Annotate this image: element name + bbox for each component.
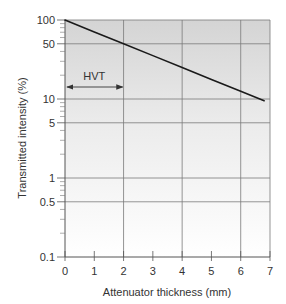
x-tick-label: 6 — [238, 265, 244, 277]
hvt-label: HVT — [83, 70, 105, 82]
x-tick-label: 2 — [121, 265, 127, 277]
attenuation-chart: 1005010510.50.1 01234567 HVT Attenuator … — [0, 0, 286, 304]
x-tick-label: 7 — [267, 265, 273, 277]
y-tick-label: 0.5 — [40, 196, 55, 208]
x-tick-label: 0 — [62, 265, 68, 277]
y-tick-label: 5 — [49, 117, 55, 129]
x-tick-label: 4 — [179, 265, 185, 277]
x-axis-label: Attenuator thickness (mm) — [103, 286, 231, 298]
x-tick-label: 5 — [208, 265, 214, 277]
plot-background — [65, 20, 270, 257]
x-tick-label: 1 — [91, 265, 97, 277]
y-tick-label: 100 — [37, 14, 55, 26]
y-axis-ticks: 1005010510.50.1 — [37, 14, 65, 263]
y-tick-label: 10 — [43, 93, 55, 105]
x-tick-label: 3 — [150, 265, 156, 277]
y-tick-label: 50 — [43, 38, 55, 50]
y-tick-label: 1 — [49, 172, 55, 184]
y-axis-label: Transmitted intensity (%) — [16, 77, 28, 198]
y-tick-label: 0.1 — [40, 251, 55, 263]
